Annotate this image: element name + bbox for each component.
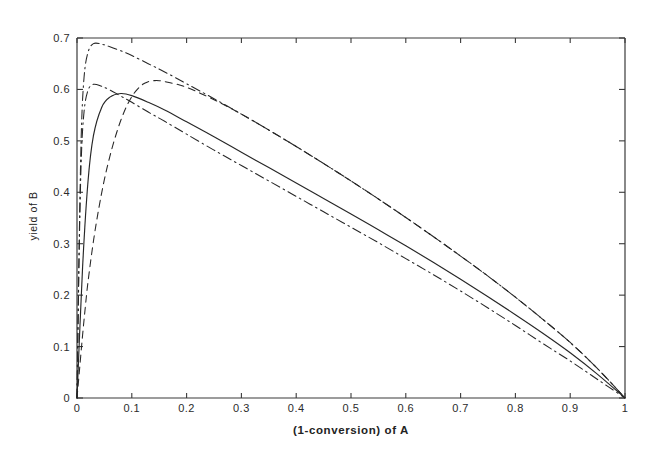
curve-dashdot-lower — [77, 84, 625, 398]
axis-frame — [77, 38, 625, 398]
y-tick-label: 0.1 — [30, 341, 70, 353]
x-tick-label: 1 — [622, 402, 629, 414]
x-tick-label: 0.8 — [507, 402, 524, 414]
x-axis-title: (1-conversion) of A — [293, 424, 409, 436]
curve-dashed — [77, 80, 625, 398]
y-tick-label: 0.2 — [30, 289, 70, 301]
x-tick-label: 0.5 — [343, 402, 360, 414]
y-tick-label: 0 — [30, 392, 70, 404]
x-tick-label: 0.2 — [178, 402, 195, 414]
curve-solid — [77, 93, 625, 398]
chart-figure: 00.10.20.30.40.50.60.70.80.91 00.10.20.3… — [0, 0, 660, 449]
y-tick-label: 0.7 — [30, 32, 70, 44]
y-axis-ticks — [77, 38, 625, 398]
y-tick-label: 0.6 — [30, 83, 70, 95]
x-axis-ticks — [77, 38, 625, 398]
x-tick-label: 0.6 — [397, 402, 414, 414]
x-tick-label: 0 — [74, 402, 81, 414]
y-axis-title: yield of B — [27, 191, 39, 240]
x-tick-label: 0.9 — [562, 402, 579, 414]
x-tick-label: 0.7 — [452, 402, 469, 414]
curve-dashdot-upper — [77, 43, 625, 398]
y-tick-label: 0.5 — [30, 135, 70, 147]
x-tick-label: 0.4 — [288, 402, 305, 414]
plot-area — [0, 0, 660, 449]
data-curves — [77, 43, 625, 398]
x-tick-label: 0.1 — [123, 402, 140, 414]
x-tick-label: 0.3 — [233, 402, 250, 414]
